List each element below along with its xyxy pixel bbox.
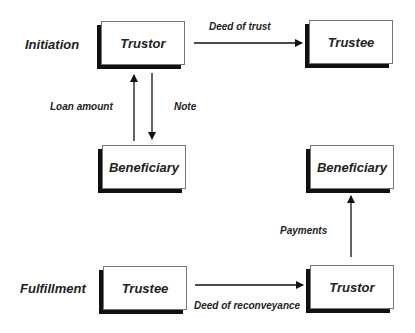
edge-label-deed-of-reconveyance: Deed of reconveyance [194,300,300,311]
edge-label-deed-of-trust: Deed of trust [209,21,271,32]
edge-label-payments: Payments [280,225,327,236]
edge-label-loan-amount: Loan amount [50,101,113,112]
edge-label-note: Note [174,101,196,112]
arrows-layer [0,0,415,333]
